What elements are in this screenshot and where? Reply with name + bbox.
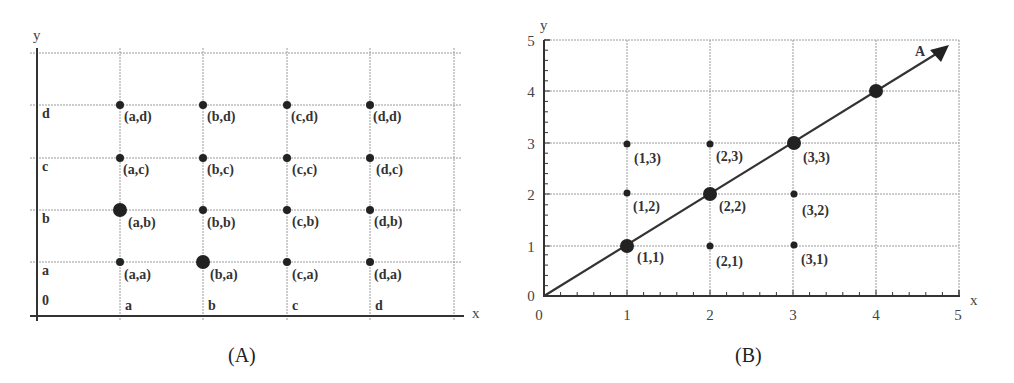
y-tick-label: b (42, 211, 50, 226)
x-axis-label: x (472, 305, 480, 321)
origin-label: 0 (42, 293, 49, 308)
point-label: (c,c) (292, 162, 318, 178)
data-point (116, 258, 124, 266)
data-point (366, 154, 374, 162)
data-point (116, 101, 124, 109)
point-label: (c,b) (292, 214, 319, 230)
data-point (366, 258, 374, 266)
x-tick-label: 1 (623, 307, 631, 323)
y-tick-label: 4 (527, 84, 535, 100)
point-label: (b,c) (207, 162, 234, 178)
point-label: (3,3) (803, 150, 830, 166)
point-label: (a,a) (124, 267, 151, 283)
point-label: (2,2) (719, 199, 746, 215)
point-label: (1,1) (637, 250, 664, 266)
point-label: (c,a) (292, 267, 318, 283)
point-label: (3,2) (802, 203, 829, 219)
y-tick-label: 0 (527, 288, 535, 304)
panel-b: 0 1 2 3 4 5 0 1 2 3 4 5 y x A (1,1) (2,1… (527, 17, 978, 367)
point-label: (d,c) (376, 162, 403, 178)
point-label: (d,a) (374, 267, 402, 283)
data-point (116, 154, 124, 162)
data-point-highlight (620, 239, 634, 253)
x-tick-label: 3 (789, 307, 797, 323)
y-axis-label: y (33, 27, 41, 43)
data-point-highlight (787, 136, 801, 150)
data-point (283, 154, 291, 162)
x-tick-label: a (125, 298, 132, 313)
data-point (199, 154, 207, 162)
x-tick-label: c (292, 298, 298, 313)
point-label: (a,b) (128, 215, 156, 231)
data-point (791, 191, 798, 198)
data-point (624, 141, 631, 148)
panel-a-caption: (A) (228, 344, 256, 367)
x-tick-label: 4 (872, 307, 880, 323)
data-point (199, 101, 207, 109)
point-label: (3,1) (801, 252, 828, 268)
point-label: (d,b) (374, 214, 403, 230)
panel-b-caption: (B) (735, 344, 762, 367)
panel-a: y x 0 a b c d a b c d (a,a) (b,a) (c,a) … (30, 27, 480, 367)
point-label: (a,d) (124, 109, 152, 125)
point-label: (d,d) (373, 109, 402, 125)
y-tick-label: a (42, 263, 49, 278)
data-point (283, 258, 291, 266)
arrowhead-icon (930, 45, 949, 62)
data-point (624, 190, 631, 197)
point-label: (b,b) (207, 215, 236, 231)
vector-label: A (915, 44, 926, 59)
point-label: (b,a) (210, 267, 238, 283)
point-label: (1,3) (634, 151, 661, 167)
x-tick-label: b (208, 298, 216, 313)
y-tick-label: 1 (527, 239, 535, 255)
x-tick-label: d (375, 298, 383, 313)
data-point (707, 141, 714, 148)
y-axis-label: y (540, 17, 548, 33)
data-point (366, 206, 374, 214)
point-label: (1,2) (633, 199, 660, 215)
y-tick-label: 3 (527, 136, 535, 152)
data-point (199, 206, 207, 214)
x-tick-label: 5 (954, 307, 962, 323)
figure-canvas: y x 0 a b c d a b c d (a,a) (b,a) (c,a) … (0, 0, 1014, 383)
data-point-highlight (703, 187, 717, 201)
point-label: (2,3) (716, 149, 743, 165)
x-axis-label: x (970, 292, 978, 308)
data-point-highlight (113, 203, 127, 217)
point-label: (a,c) (123, 162, 149, 178)
data-point (283, 101, 291, 109)
data-point (707, 243, 714, 250)
point-label: (2,1) (716, 254, 743, 270)
y-tick-label: c (42, 159, 48, 174)
data-point-highlight (196, 255, 210, 269)
data-point (366, 101, 374, 109)
x-tick-label: 2 (706, 307, 714, 323)
data-point (283, 206, 291, 214)
data-point (791, 242, 798, 249)
point-label: (b,d) (207, 109, 236, 125)
y-tick-label: d (42, 106, 50, 121)
point-label: (c,d) (291, 109, 318, 125)
data-point-highlight (869, 84, 883, 98)
x-tick-label: 0 (535, 307, 543, 323)
y-tick-label: 5 (527, 33, 535, 49)
y-tick-label: 2 (527, 187, 535, 203)
